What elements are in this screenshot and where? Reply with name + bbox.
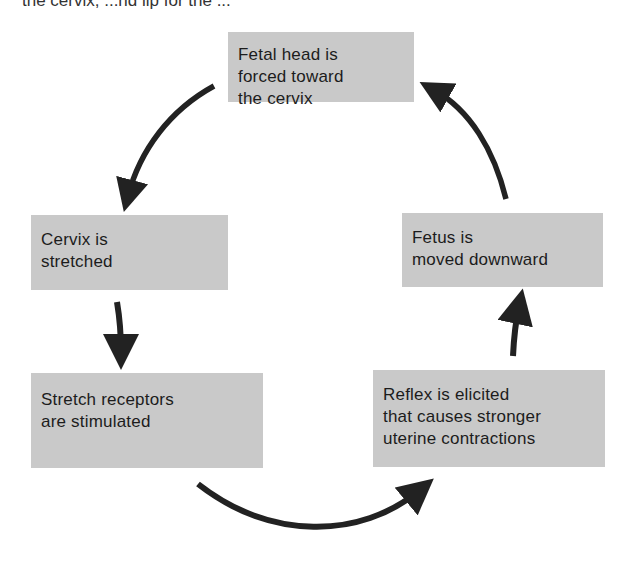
arrow-icon (513, 306, 519, 356)
arrow-icon (434, 90, 506, 199)
cycle-arrows (0, 0, 626, 561)
arrow-icon (117, 302, 121, 352)
arrow-icon (128, 86, 214, 196)
arrow-icon (198, 484, 420, 527)
